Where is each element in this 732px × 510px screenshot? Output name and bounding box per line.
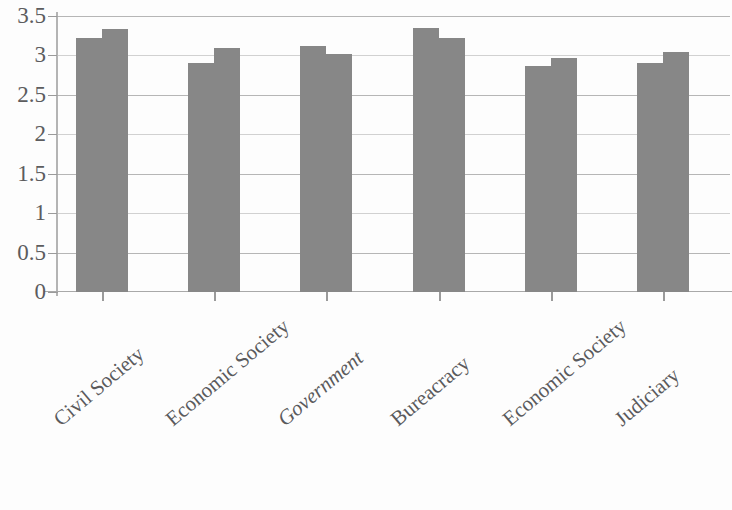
- gridline: [57, 174, 730, 175]
- bar: [551, 58, 577, 292]
- gridline: [57, 253, 730, 254]
- x-axis-label: Government: [274, 347, 367, 430]
- gridline: [57, 55, 730, 56]
- bar: [188, 63, 214, 292]
- bar: [637, 63, 663, 292]
- x-axis-label: Civil Society: [50, 343, 148, 430]
- gridline: [57, 16, 730, 17]
- y-axis-tick-label: 1: [0, 201, 46, 224]
- bar: [326, 54, 352, 292]
- x-axis-labels: Civil SocietyEconomic SocietyGovernmentB…: [0, 296, 732, 510]
- bar: [663, 52, 689, 293]
- plot-area: [57, 16, 730, 292]
- bar: [439, 38, 465, 292]
- gridline: [57, 213, 730, 214]
- y-axis-tick-label: 2: [0, 122, 46, 145]
- y-axis-tick-label: 2.5: [0, 83, 46, 106]
- bar: [413, 28, 439, 292]
- y-axis-tick: [48, 292, 58, 293]
- bar: [76, 38, 102, 292]
- gridline: [57, 95, 730, 96]
- bar: [214, 48, 240, 292]
- y-axis-tick-label: 1.5: [0, 162, 46, 185]
- y-axis-tick-label: 3.5: [0, 4, 46, 27]
- x-axis-label: Bureacracy: [387, 353, 474, 431]
- bar: [525, 66, 551, 292]
- gridline: [57, 134, 730, 135]
- y-axis-tick-label: 0.5: [0, 241, 46, 264]
- bar-chart: 3.532.521.510.50 Civil SocietyEconomic S…: [0, 0, 732, 510]
- bar: [300, 46, 326, 292]
- y-axis-tick-label: 3: [0, 43, 46, 66]
- bar: [102, 29, 128, 292]
- x-axis-label: Judiciary: [611, 365, 683, 431]
